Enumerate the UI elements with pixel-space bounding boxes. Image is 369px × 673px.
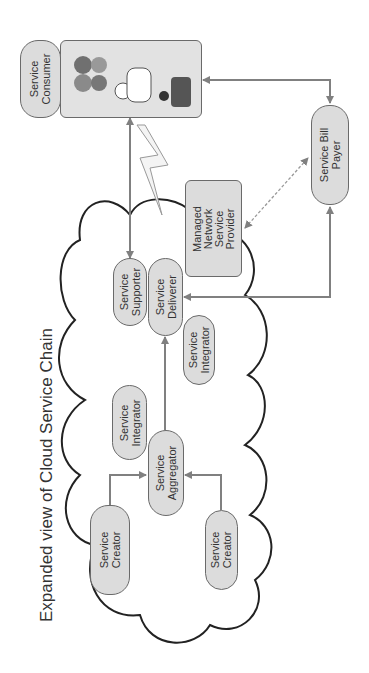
- label: Service: [29, 61, 41, 98]
- label: Payer: [330, 141, 342, 170]
- label: Integrator: [130, 399, 142, 446]
- service-creator-node: ServiceCreator: [90, 505, 130, 595]
- diagram-title: Expanded view of Cloud Service Chain: [37, 328, 57, 622]
- label: Creator: [110, 532, 122, 569]
- service-integrator-node: ServiceIntegrator: [112, 385, 147, 460]
- service-deliverer-node: ServiceDeliverer: [148, 258, 183, 336]
- consumer-box: [60, 40, 202, 118]
- service-integrator-node: ServiceIntegrator: [183, 315, 215, 385]
- label: Service: [154, 455, 166, 492]
- service-consumer-node: ServiceConsumer: [20, 40, 61, 118]
- label: Service Bill: [318, 128, 330, 182]
- label: Service: [213, 210, 225, 247]
- label: Consumer: [41, 54, 53, 105]
- service-aggregator-node: ServiceAggregator: [148, 430, 184, 516]
- label: Service: [118, 274, 130, 311]
- service-creator-node: ServiceCreator: [205, 510, 238, 590]
- managed-network-service-provider-node: ManagedNetworkServiceProvider: [185, 180, 242, 277]
- label: Provider: [224, 208, 236, 249]
- label: Integrator: [199, 326, 211, 373]
- label: Aggregator: [166, 446, 178, 500]
- label: Service: [118, 404, 130, 441]
- label: Service: [98, 532, 110, 569]
- users-icon: [61, 41, 203, 119]
- label: Creator: [222, 532, 234, 569]
- label: Network: [202, 208, 214, 248]
- label: Service: [187, 332, 199, 369]
- label: Service: [154, 279, 166, 316]
- service-supporter-node: ServiceSupporter: [113, 258, 147, 326]
- label: Supporter: [130, 268, 142, 316]
- label: Deliverer: [166, 275, 178, 319]
- label: Service: [210, 532, 222, 569]
- service-bill-payer-node: Service BillPayer: [311, 105, 349, 205]
- label: Managed: [191, 206, 203, 252]
